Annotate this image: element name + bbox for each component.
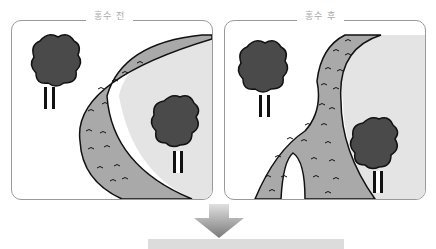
before-flood-illustration [12, 21, 212, 199]
before-flood-panel [11, 20, 213, 200]
tree-icon [31, 35, 80, 109]
tree-icon [238, 41, 287, 117]
arrow-down-icon [194, 204, 244, 238]
after-flood-panel [224, 20, 426, 200]
result-bar [148, 239, 344, 249]
after-flood-illustration [225, 21, 425, 199]
before-flood-label: 홍수 전 [86, 9, 133, 22]
after-flood-label: 홍수 후 [297, 9, 344, 22]
